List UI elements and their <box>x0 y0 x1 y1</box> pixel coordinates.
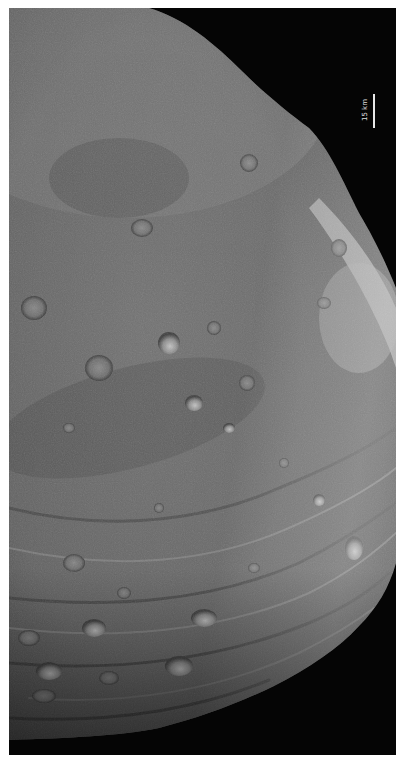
scale-bar: 15 km <box>364 94 378 128</box>
asteroid-image <box>9 8 396 755</box>
photo-frame: 15 km <box>9 8 396 755</box>
scale-bar-line <box>373 94 375 128</box>
scale-bar-label: 15 km <box>360 98 370 122</box>
